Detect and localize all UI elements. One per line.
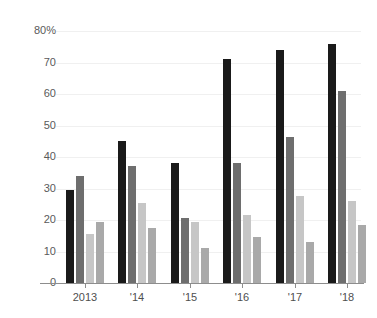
x-axis-tick-mark	[137, 284, 138, 288]
x-axis-tick-label: '16	[212, 291, 272, 303]
bar	[243, 215, 251, 283]
bar	[338, 91, 346, 283]
bar	[328, 44, 336, 283]
x-axis-tick-label: '14	[107, 291, 167, 303]
bar	[76, 176, 84, 283]
x-axis-line	[40, 283, 364, 284]
bar-group-bars	[171, 28, 209, 283]
x-axis-tick-mark	[295, 284, 296, 288]
y-axis-tick-label: 70	[12, 57, 56, 68]
bar-group-bars	[276, 28, 314, 283]
bar	[276, 50, 284, 283]
bar	[138, 203, 146, 283]
bar-group-bars	[66, 28, 104, 283]
bar	[286, 137, 294, 283]
bar-group-bars	[328, 28, 366, 283]
bar	[128, 166, 136, 283]
bar	[306, 242, 314, 283]
bar	[358, 225, 366, 283]
bar	[118, 141, 126, 283]
bar	[223, 59, 231, 283]
y-axis-tick-label: 80%	[12, 25, 56, 36]
bar	[348, 201, 356, 283]
y-axis-tick-label: 20	[12, 214, 56, 225]
y-axis-tick-label: 60	[12, 88, 56, 99]
y-axis-tick-label: 40	[12, 151, 56, 162]
x-axis-tick-mark	[242, 284, 243, 288]
bar	[201, 248, 209, 283]
x-axis-tick-mark	[190, 284, 191, 288]
bar	[66, 190, 74, 283]
bar	[296, 196, 304, 283]
bar	[148, 228, 156, 283]
bar	[233, 163, 241, 283]
bar	[181, 218, 189, 283]
x-axis-tick-label: 2013	[55, 291, 115, 303]
bar	[171, 163, 179, 283]
bar	[86, 234, 94, 283]
bar	[96, 222, 104, 283]
bar-chart: 80%706050403020100 2013'14'15'16'17'18	[0, 0, 377, 318]
x-axis-tick-label: '15	[160, 291, 220, 303]
bar	[191, 222, 199, 283]
bar-group-bars	[223, 28, 261, 283]
y-axis-tick-label: 50	[12, 120, 56, 131]
bar-group-bars	[118, 28, 156, 283]
y-axis-tick-label: 10	[12, 246, 56, 257]
x-axis-tick-label: '17	[265, 291, 325, 303]
x-axis-tick-mark	[85, 284, 86, 288]
x-axis-tick-mark	[347, 284, 348, 288]
bar	[253, 237, 261, 283]
x-axis-tick-label: '18	[317, 291, 377, 303]
y-axis-tick-label: 30	[12, 183, 56, 194]
